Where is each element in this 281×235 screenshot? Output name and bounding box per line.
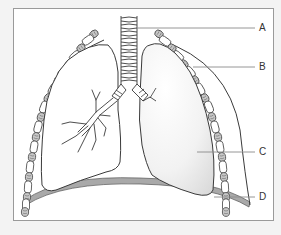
label-a: A (259, 23, 266, 33)
label-d: D (259, 192, 266, 202)
label-b: B (259, 62, 266, 72)
label-c: C (259, 147, 266, 157)
left-lung (139, 44, 214, 196)
lung-diagram (0, 0, 281, 235)
